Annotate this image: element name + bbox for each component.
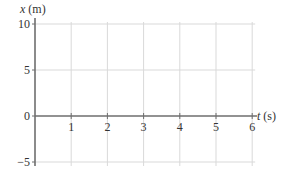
y-tick-label: 0 (24, 109, 30, 123)
x-tick-label: 5 (213, 120, 219, 134)
position-time-graph: −50510123456 x (m) t (s) (0, 0, 284, 184)
y-tick-label: 5 (24, 63, 30, 77)
x-tick-label: 4 (177, 120, 183, 134)
y-axis-label: x (m) (19, 2, 46, 16)
y-tick-label: 10 (18, 17, 30, 31)
x-tick-label: 6 (249, 120, 255, 134)
axes (32, 18, 257, 166)
grid-lines (35, 22, 255, 166)
x-tick-label: 2 (104, 120, 110, 134)
x-axis-label: t (s) (257, 109, 276, 123)
y-tick-label: −5 (17, 155, 30, 169)
x-tick-label: 1 (68, 120, 74, 134)
tick-labels: −50510123456 (17, 17, 255, 169)
x-tick-label: 3 (141, 120, 147, 134)
